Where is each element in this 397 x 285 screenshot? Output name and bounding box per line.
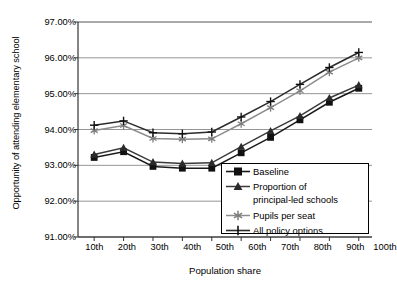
filled-triangle-icon [225, 180, 251, 193]
legend-item-proportion: Proportion of [222, 179, 368, 194]
legend-label: All policy options [251, 225, 323, 236]
legend-label: Proportion of [251, 181, 307, 192]
asterisk-icon [225, 209, 251, 222]
plus-icon [225, 224, 251, 237]
legend-item-all-policy-options: All policy options [222, 223, 368, 238]
legend-label-continuation: principal-led schools [222, 194, 368, 208]
series-all-policy-options [90, 48, 363, 138]
legend-label: Pupils per seat [251, 210, 315, 221]
chart-legend: Baseline Proportion of principal-led sch… [221, 163, 369, 234]
legend-item-pupils-per-seat: Pupils per seat [222, 208, 368, 223]
legend-item-baseline: Baseline [222, 164, 368, 179]
legend-label: Baseline [251, 166, 289, 177]
filled-square-icon [225, 165, 251, 178]
